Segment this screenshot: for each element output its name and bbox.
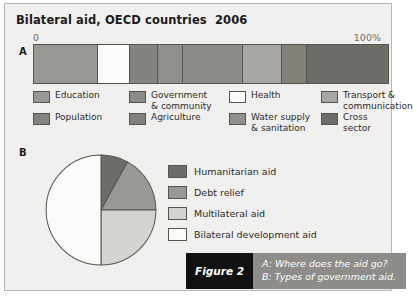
legend-item: Transport & communication [321,90,391,112]
legend-swatch-icon [229,113,246,125]
legend-swatch-icon [33,91,50,103]
legend-swatch-icon [321,91,338,103]
caption-line-a: A: Where does the aid go? [262,257,396,270]
bar-segment-transport-communication [243,45,282,83]
legend-item-label: Water supply & sanitation [251,112,310,133]
legend-item-label: Education [55,90,100,101]
legend-item: Humanitarian aid [168,161,348,182]
figure-caption: Figure 2 A: Where does the aid go? B: Ty… [186,253,406,289]
figure-caption-text: A: Where does the aid go? B: Types of go… [253,253,406,289]
legend-swatch-icon [168,165,187,178]
figure-number-badge: Figure 2 [186,253,253,289]
pie-chart [45,154,157,266]
pie-chart-legend: Humanitarian aidDebt reliefMultilateral … [168,161,348,245]
legend-swatch-icon [129,113,146,125]
legend-item: Bilateral development aid [168,224,348,245]
legend-item: Water supply & sanitation [229,112,321,134]
legend-item: Population [33,112,129,134]
bar-segment-health [98,45,130,83]
legend-item-label: Humanitarian aid [194,166,276,177]
caption-line-b: B: Types of government aid. [262,270,396,283]
pie-slice-bilateral-development-aid [46,155,101,265]
bar-segment-government-community [183,45,243,83]
legend-item: Education [33,90,129,112]
pie-slice-multilateral-aid [101,210,156,265]
legend-item: Government & community [129,90,229,112]
legend-swatch-icon [168,186,187,199]
bar-segment-agriculture [282,45,307,83]
legend-item-label: Government & community [151,90,212,111]
bar-segment-education [34,45,98,83]
legend-swatch-icon [168,207,187,220]
bar-segment-cross-sector [307,45,388,83]
legend-swatch-icon [321,113,338,125]
figure-card: Bilateral aid, OECD countries 2006 A 0 1… [4,3,392,291]
legend-swatch-icon [229,91,246,103]
bar-segment-water-supply-sanitation [158,45,183,83]
legend-item: Multilateral aid [168,203,348,224]
section-b-label: B [19,147,27,158]
legend-item-label: Multilateral aid [194,208,265,219]
stacked-bar-chart [33,44,389,84]
legend-swatch-icon [33,113,50,125]
legend-swatch-icon [129,91,146,103]
legend-item-label: Bilateral development aid [194,229,317,240]
legend-item: Cross sector [321,112,391,134]
bar-axis-max-label: 100% [354,32,381,43]
legend-item-label: Transport & communication [343,90,413,111]
legend-item: Agriculture [129,112,229,134]
legend-item-label: Health [251,90,281,101]
legend-item-label: Debt relief [194,187,244,198]
figure-title: Bilateral aid, OECD countries 2006 [16,13,247,27]
legend-item-label: Population [55,112,102,123]
bar-segment-population [130,45,158,83]
legend-item: Health [229,90,321,112]
legend-item-label: Cross sector [343,112,391,133]
legend-swatch-icon [168,228,187,241]
legend-item: Debt relief [168,182,348,203]
section-a-label: A [19,46,27,57]
legend-item-label: Agriculture [151,112,201,123]
bar-axis-min-label: 0 [33,32,39,43]
bar-chart-legend: EducationGovernment & communityHealthTra… [33,90,391,134]
